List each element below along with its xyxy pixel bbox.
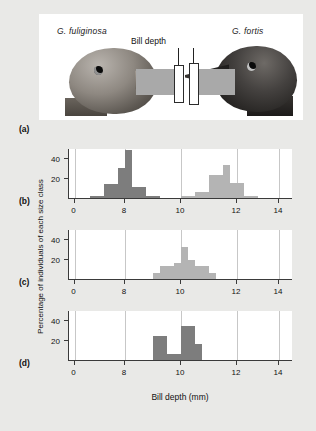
bird-eye-right [247,62,256,71]
plot-area-d [68,311,292,361]
histogram-bar [188,260,195,280]
y-tick [64,340,68,341]
gridline [237,311,238,361]
y-tick-label: 40 [40,155,60,164]
gridline [125,230,126,280]
species-label-fortis: G. fortis [232,26,264,36]
x-tick-label: 10 [170,287,190,296]
x-tick-label: 0 [64,368,84,377]
bird-photo-panel: G. fuliginosa G. fortis Bill depth [39,14,303,120]
plot-area-b [68,149,292,199]
x-tick-label: 10 [170,206,190,215]
x-tick [236,361,237,365]
x-tick-label: 12 [226,206,246,215]
x-tick-label: 0 [64,287,84,296]
histogram-bar [118,168,125,199]
gridline [125,311,126,361]
x-tick-label: 14 [268,368,288,377]
x-tick [180,361,181,365]
x-tick-label: 12 [226,368,246,377]
x-axis-title: Bill depth (mm) [68,392,292,402]
histogram-bar [188,326,195,361]
x-tick [74,199,75,203]
x-tick [278,361,279,365]
gridline [279,311,280,361]
histogram-bar [195,344,202,361]
histogram-panel-d: 081012142040 [68,311,292,361]
gridline [75,149,76,199]
histogram-bar [160,336,167,361]
y-tick-label: 40 [40,236,60,245]
histogram-panel-b: 081012142040 [68,149,292,199]
x-tick-label: 0 [64,206,84,215]
calliper-left [174,65,184,103]
y-tick [64,239,68,240]
y-tick [64,178,68,179]
panel-label-a: (a) [19,124,29,134]
histogram-bar [125,150,132,199]
x-tick [124,280,125,284]
histogram-panel-c: 081012142040 [68,230,292,280]
x-tick [180,280,181,284]
measure-leader-right [193,48,194,64]
x-tick-label: 8 [114,206,134,215]
histogram-bar [216,175,223,199]
histogram-bar [174,263,181,280]
histogram-bar [181,247,188,280]
x-tick-label: 14 [268,206,288,215]
bird-eye-left [94,66,103,75]
x-tick [236,280,237,284]
x-tick-label: 10 [170,368,190,377]
x-tick [124,361,125,365]
panel-label-c: (c) [19,277,29,287]
species-label-fuliginosa: G. fuliginosa [57,26,107,36]
calliper-right [189,63,199,105]
histogram-bar [153,336,160,361]
bill-depth-caption: Bill depth [131,36,166,46]
y-tick-label: 20 [40,175,60,184]
x-tick-label: 8 [114,287,134,296]
x-tick-label: 8 [114,368,134,377]
x-tick [74,361,75,365]
histogram-bar [223,165,230,199]
y-tick [64,259,68,260]
gridline [237,230,238,280]
histogram-bar [230,183,237,199]
histogram-bar [237,183,244,199]
gridline [279,149,280,199]
y-tick [64,320,68,321]
y-tick [64,158,68,159]
panel-label-d: (d) [19,358,30,368]
x-tick-label: 14 [268,287,288,296]
x-tick [124,199,125,203]
measure-leader-left [178,48,179,66]
x-tick [180,199,181,203]
x-tick [278,199,279,203]
gridline [279,230,280,280]
y-tick-label: 20 [40,256,60,265]
plot-area-c [68,230,292,280]
panel-label-b: (b) [19,196,30,206]
gridline [181,149,182,199]
histogram-bar [181,326,188,361]
figure-root: G. fuliginosa G. fortis Bill depth (a) (… [0,0,316,431]
gridline [75,230,76,280]
x-tick [278,280,279,284]
x-tick-label: 12 [226,287,246,296]
y-tick-label: 40 [40,317,60,326]
histogram-bar [209,175,216,199]
gridline [75,311,76,361]
x-tick [236,199,237,203]
x-tick [74,280,75,284]
y-tick-label: 20 [40,337,60,346]
